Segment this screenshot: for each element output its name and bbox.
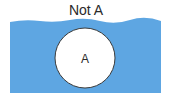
set-a-label: A: [81, 52, 89, 66]
venn-diagram: A: [0, 0, 172, 106]
